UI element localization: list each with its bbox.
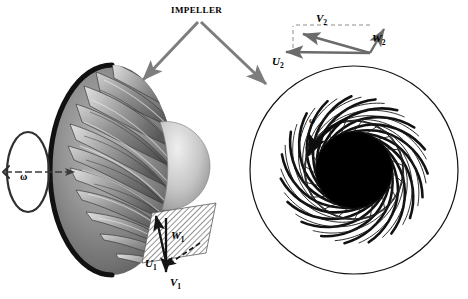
v2-subscript: 2 xyxy=(323,18,327,27)
w2-label: W2 xyxy=(372,33,386,47)
u2-subscript: 2 xyxy=(280,61,284,70)
u2-label: U2 xyxy=(272,56,284,70)
w1-label: W1 xyxy=(171,230,185,244)
w2-symbol: W xyxy=(372,32,382,44)
v1-label: V1 xyxy=(170,277,181,291)
label-layer: IMPELLER ω ω V2 W2 U2 W1 U1 V1 xyxy=(0,0,468,299)
omega-plan-label: ω xyxy=(309,117,315,125)
impeller-velocity-diagram: IMPELLER ω ω V2 W2 U2 W1 U1 V1 xyxy=(0,0,468,299)
impeller-title-label: IMPELLER xyxy=(171,6,222,15)
u2-symbol: U xyxy=(272,55,280,67)
w1-symbol: W xyxy=(171,229,181,241)
u1-label: U1 xyxy=(145,258,157,272)
v2-label: V2 xyxy=(316,13,327,27)
omega-shaft-label: ω xyxy=(20,172,27,182)
v1-subscript: 1 xyxy=(177,282,181,291)
u1-symbol: U xyxy=(145,257,153,269)
w1-subscript: 1 xyxy=(181,235,185,244)
u1-subscript: 1 xyxy=(153,263,157,272)
w2-subscript: 2 xyxy=(382,38,386,47)
